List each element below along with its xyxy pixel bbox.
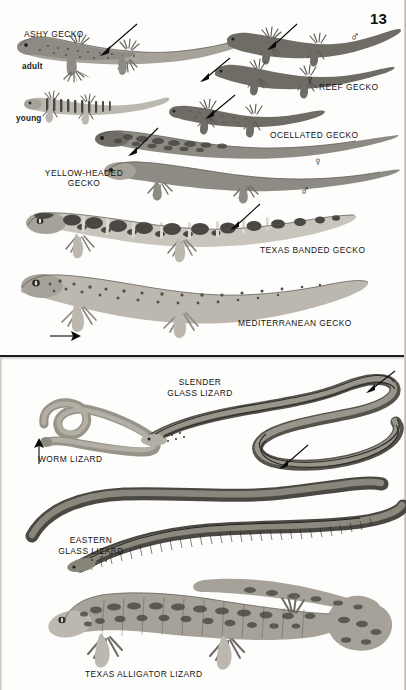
- sex-symbol-yellow-headed-male: ♂: [300, 184, 310, 197]
- pointer-arrow-ocellated-gecko: [203, 93, 237, 119]
- page-edge-left: [0, 358, 2, 690]
- label-ocellated-gecko: OCELLATED GECKO: [270, 130, 359, 141]
- pointer-arrow-reef-gecko-female: [198, 56, 232, 82]
- page-number: 13: [370, 10, 387, 27]
- sex-symbol-yellow-headed-female: ♀: [313, 155, 323, 168]
- pointer-arrow-worm-lizard: [33, 436, 47, 466]
- label-texas-banded-gecko: TEXAS BANDED GECKO: [260, 245, 365, 256]
- yellow-headed-gecko-male-illustration: [100, 152, 400, 200]
- pointer-arrow-slender-glass-lizard-lower: [276, 443, 310, 469]
- ashy-gecko-young-illustration: [20, 88, 170, 128]
- label-slender-glass-lizard-line2: GLASS LIZARD: [140, 388, 260, 399]
- sex-symbol-reef-gecko-male: ♂: [350, 30, 360, 43]
- label-yellow-headed-gecko-line1: YELLOW-HEADED: [29, 168, 139, 179]
- label-worm-lizard: WORM LIZARD: [38, 454, 103, 465]
- label-ashy-gecko: ASHY GECKO: [24, 29, 84, 40]
- label-mediterranean-gecko: MEDITERRANEAN GECKO: [238, 318, 352, 329]
- pointer-arrow-ashy-gecko: [97, 22, 139, 56]
- label-slender-glass-lizard-line1: SLENDER: [140, 377, 260, 388]
- label-adult: adult: [22, 62, 43, 73]
- pointer-arrow-texas-banded-gecko: [228, 202, 262, 230]
- texas-banded-gecko-illustration: [20, 203, 360, 265]
- label-texas-alligator-lizard: TEXAS ALLIGATOR LIZARD: [85, 669, 203, 680]
- pointer-arrow-yellow-headed-gecko: [126, 126, 160, 156]
- pointer-arrow-slender-glass-lizard-upper: [363, 369, 397, 393]
- texas-alligator-lizard-illustration: [44, 560, 396, 686]
- sex-symbol-reef-gecko-female: ♀: [305, 73, 315, 86]
- label-eastern-glass-lizard-line2: GLASS LIZARD: [36, 546, 146, 557]
- label-young: young: [16, 114, 42, 125]
- label-yellow-headed-gecko-line2: GECKO: [29, 178, 139, 189]
- field-guide-plate: ASHY GECKO adult young REEF GECKO OCELLA…: [0, 0, 406, 690]
- pointer-arrow-mediterranean-gecko: [48, 330, 82, 344]
- label-eastern-glass-lizard-line1: EASTERN: [36, 535, 146, 546]
- label-reef-gecko: REEF GECKO: [319, 82, 378, 93]
- pointer-arrow-reef-gecko-male: [265, 22, 299, 50]
